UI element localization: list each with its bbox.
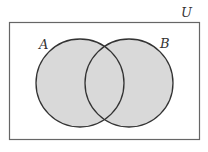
set-b-label: B (159, 36, 170, 51)
universe-label: U (181, 5, 193, 20)
set-a-label: A (38, 37, 48, 52)
venn-diagram: A B U (0, 0, 208, 152)
